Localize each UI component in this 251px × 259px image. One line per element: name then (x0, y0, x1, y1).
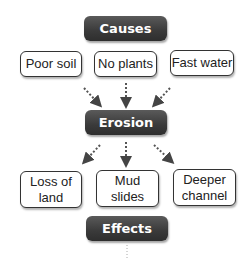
effects-label: Effects (102, 221, 152, 236)
arrow-erosion-to-loss-of-land (86, 145, 100, 160)
arrow-erosion-to-deeper-channel (154, 145, 170, 160)
cause-box-no-plants: No plants (94, 51, 157, 77)
effect-box-loss-of-land: Loss ofland (20, 171, 82, 208)
cause-label: Poor soil (26, 56, 77, 72)
effects-header: Effects (86, 216, 168, 241)
effect-label: Loss ofland (30, 174, 72, 206)
cause-box-fast-water: Fast water (170, 50, 234, 76)
cause-label: No plants (98, 56, 153, 72)
effect-box-deeper-channel: Deeperchannel (173, 169, 236, 206)
cause-label: Fast water (172, 55, 233, 71)
effect-box-mud-slides: Mudslides (96, 170, 159, 207)
arrow-fast-water-to-erosion (156, 88, 170, 103)
effect-label: Deeperchannel (182, 172, 228, 204)
effect-label: Mudslides (111, 173, 144, 205)
erosion-label: Erosion (99, 115, 154, 130)
arrow-poor-soil-to-erosion (84, 88, 98, 103)
causes-header: Causes (84, 16, 167, 41)
causes-label: Causes (100, 21, 152, 36)
erosion-node: Erosion (85, 110, 167, 135)
cause-box-poor-soil: Poor soil (20, 51, 82, 77)
